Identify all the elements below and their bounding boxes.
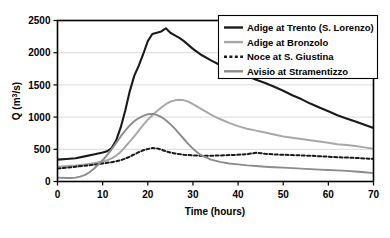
- x-tick-label: 0: [55, 189, 61, 200]
- x-axis-title: Time (hours): [185, 206, 245, 217]
- legend-label: Noce at S. Giustina: [247, 51, 334, 62]
- legend-label: Adige at Trento (S. Lorenzo): [247, 22, 374, 33]
- chart-container: 05001000150020002500 010203040506070 Tim…: [0, 0, 390, 238]
- x-tick-label: 30: [187, 189, 199, 200]
- y-axis-title-tail: /s): [11, 82, 22, 94]
- x-tick-label: 60: [323, 189, 335, 200]
- y-tick-label: 0: [45, 176, 51, 187]
- y-tick-label: 1000: [28, 112, 51, 123]
- x-tick-label: 10: [97, 189, 109, 200]
- x-tick-label: 50: [278, 189, 290, 200]
- y-axis-title: Q (m3/s): [11, 82, 23, 120]
- y-tick-label: 2000: [28, 47, 51, 58]
- x-tick-label: 70: [368, 189, 380, 200]
- y-tick-label: 500: [34, 144, 51, 155]
- legend-label: Avisio at Stramentizzo: [247, 66, 348, 77]
- x-tick-label: 20: [142, 189, 154, 200]
- y-axis-title-base: Q (m: [11, 97, 22, 120]
- legend-label: Adige at Bronzolo: [247, 37, 328, 48]
- y-tick-label: 1500: [28, 80, 51, 91]
- x-tick-label: 40: [233, 189, 245, 200]
- y-tick-label: 2500: [28, 15, 51, 26]
- line-chart: 05001000150020002500 010203040506070 Tim…: [0, 0, 390, 238]
- legend: Adige at Trento (S. Lorenzo)Adige at Bro…: [219, 16, 378, 79]
